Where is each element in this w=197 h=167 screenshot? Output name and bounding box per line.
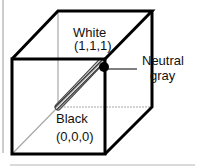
- right-face-edges: [105, 11, 152, 154]
- neutral-gray-point: [99, 62, 109, 72]
- white-coords-label: (1,1,1): [74, 38, 112, 53]
- hidden-edge-bottom-left: [12, 107, 58, 154]
- color-cube-diagram: White (1,1,1) Neutral gray Black (0,0,0): [0, 0, 197, 167]
- neutral-gray-label-line2: gray: [150, 68, 176, 83]
- neutral-axis-hatch: [58, 62, 101, 107]
- black-coords-label: (0,0,0): [56, 129, 94, 144]
- black-label: Black: [56, 111, 88, 126]
- neutral-gray-label-line1: Neutral: [142, 53, 184, 68]
